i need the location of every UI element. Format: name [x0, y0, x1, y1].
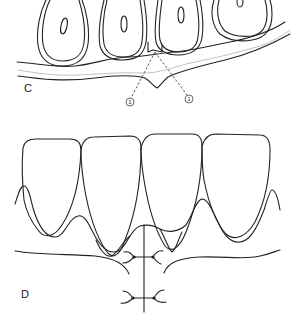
svg-text:1: 1: [187, 96, 191, 102]
crown-4: [202, 134, 270, 238]
tooth-root-2-outline: [103, 0, 143, 57]
svg-text:1: 1: [128, 99, 132, 105]
panel-label-c: C: [24, 82, 32, 94]
crown-3: [141, 134, 202, 249]
panel-label-d: D: [21, 288, 29, 300]
mucogingival-line-right: [164, 250, 280, 273]
mucogingival-line-left: [15, 251, 129, 274]
tooth-root-3-canal: [178, 7, 184, 23]
crown-2: [81, 136, 141, 256]
tooth-root-1-canal: [59, 18, 68, 35]
interdental-crest: [148, 42, 162, 52]
papilla-right: [160, 229, 182, 252]
callout-line-left: [131, 52, 155, 98]
tooth-root-4-canal: [237, 0, 243, 7]
tooth-root-1-outline: [42, 0, 84, 61]
tooth-root-2-canal: [121, 16, 127, 32]
callout-marker-1b: 1: [185, 95, 193, 103]
callout-line-right: [155, 52, 187, 95]
crown-1: [22, 139, 81, 236]
callout-marker-1a: 1: [126, 98, 134, 106]
tooth-root-1-socket: [37, 0, 88, 66]
gingival-margin: [15, 186, 280, 252]
panel-d: D: [15, 134, 280, 312]
diagram-canvas: 1 1 C: [0, 0, 296, 322]
panel-c: 1 1 C: [17, 0, 290, 106]
suture-upper: [123, 251, 163, 264]
tooth-root-2-socket: [99, 0, 147, 60]
